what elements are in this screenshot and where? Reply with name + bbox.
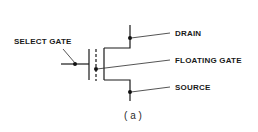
drain-leader bbox=[131, 33, 170, 38]
floating-gate-label: FLOATING GATE bbox=[175, 56, 242, 65]
source-label: SOURCE bbox=[175, 83, 211, 92]
select-gate-label: SELECT GATE bbox=[14, 37, 72, 46]
source-wire bbox=[104, 80, 130, 101]
floating-gate bbox=[94, 49, 98, 81]
source-terminal bbox=[104, 80, 132, 101]
floating-gate-transistor-diagram: SELECT GATE DRAIN FLOATING GATE SOURCE (… bbox=[0, 0, 258, 132]
drain-wire bbox=[104, 25, 130, 48]
select-gate-leader bbox=[63, 49, 75, 63]
source-leader bbox=[131, 87, 170, 92]
drain-label: DRAIN bbox=[175, 29, 201, 38]
floating-gate-leader bbox=[97, 60, 170, 69]
drain-terminal bbox=[104, 25, 132, 48]
figure-caption: ( a ) bbox=[124, 110, 142, 121]
